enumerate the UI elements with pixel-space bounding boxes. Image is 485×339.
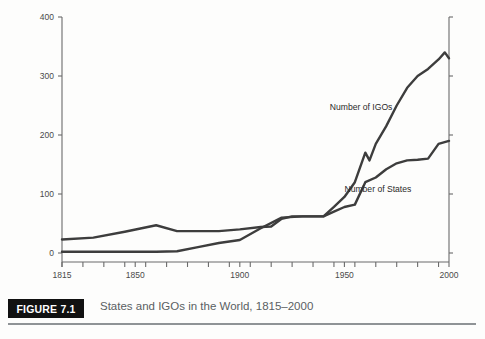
caption-divider-rule [8,323,476,325]
x-tick-label: 1900 [230,270,249,280]
y-tick-label: 200 [40,130,54,140]
x-axis-tick-labels: 18151850190019502000 [53,270,459,280]
series-line [62,141,449,252]
figure-container: 0100200300400 18151850190019502000 Numbe… [0,0,485,339]
figure-number-badge: FIGURE 7.1 [8,299,84,318]
line-chart: 0100200300400 18151850190019502000 Numbe… [0,0,485,290]
x-tick-label: 1850 [126,270,145,280]
x-tick-label: 1815 [53,270,72,280]
series-annotation-label: Number of IGOs [330,102,393,112]
y-tick-label: 0 [49,248,54,258]
y-tick-label: 400 [40,12,54,22]
chart-plot-area: 0100200300400 18151850190019502000 Numbe… [0,0,485,290]
y-tick-label: 100 [40,189,54,199]
x-tick-label: 2000 [440,270,459,280]
figure-caption-bar: FIGURE 7.1 States and IGOs in the World,… [0,296,485,339]
series-annotation-label: Number of States [344,184,411,194]
series-line [62,52,449,239]
x-tick-label: 1950 [335,270,354,280]
chart-axes [62,17,449,262]
chart-tick-marks [58,17,453,267]
y-tick-label: 300 [40,71,54,81]
figure-caption-text: States and IGOs in the World, 1815–2000 [100,300,313,312]
y-axis-tick-labels: 0100200300400 [40,12,54,258]
chart-series-lines [62,52,449,251]
